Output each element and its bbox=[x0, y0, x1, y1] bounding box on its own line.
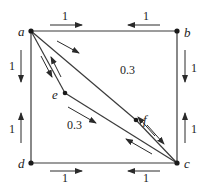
label-f: f bbox=[143, 112, 149, 127]
weight-ad-lower: 1 bbox=[9, 122, 15, 136]
label-d: d bbox=[18, 156, 25, 171]
weight-ab-right: 1 bbox=[143, 9, 149, 23]
node-b bbox=[174, 28, 179, 33]
weight-bc-upper: 1 bbox=[191, 61, 197, 75]
weight-ec: 0.3 bbox=[67, 118, 82, 132]
label-a: a bbox=[18, 24, 25, 39]
weight-dc-right: 1 bbox=[143, 171, 149, 185]
edge-a-e bbox=[31, 31, 65, 93]
node-c bbox=[174, 160, 179, 165]
flow-network-diagram: a b c d e f 1 1 1 1 1 1 1 1 0.3 0.3 bbox=[0, 0, 208, 189]
weight-labels: 1 1 1 1 1 1 1 1 0.3 0.3 bbox=[9, 9, 197, 185]
label-e: e bbox=[52, 87, 58, 102]
label-c: c bbox=[184, 156, 190, 171]
node-a bbox=[28, 28, 33, 33]
arrow-diagonal-icon bbox=[51, 57, 61, 77]
node-labels: a b c d e f bbox=[18, 24, 191, 171]
node-d bbox=[28, 160, 33, 165]
weight-ad-upper: 1 bbox=[9, 59, 15, 73]
node-e bbox=[63, 91, 68, 96]
node-f bbox=[134, 118, 139, 123]
weight-dc-left: 1 bbox=[62, 171, 68, 185]
label-b: b bbox=[184, 25, 191, 40]
arrow-diagonal-icon bbox=[126, 139, 152, 154]
weight-af: 0.3 bbox=[120, 63, 135, 77]
weight-bc-lower: 1 bbox=[191, 122, 197, 136]
flow-arrows bbox=[21, 25, 185, 171]
arrow-diagonal-icon bbox=[57, 41, 79, 53]
weight-ab-left: 1 bbox=[62, 9, 68, 23]
